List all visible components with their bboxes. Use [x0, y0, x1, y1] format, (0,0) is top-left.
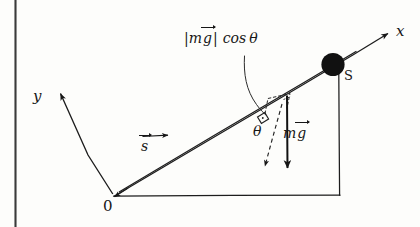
diagram-canvas: x y 0 S θ s mg |mg|cosθ — [0, 0, 420, 227]
displacement-symbol: s — [140, 139, 149, 153]
abs-bar-close: | — [213, 30, 218, 46]
incline-lower-edge — [115, 56, 353, 197]
origin-label: 0 — [103, 199, 113, 214]
point-s-label: S — [344, 69, 353, 82]
incline-origin-arrow — [115, 188, 129, 197]
riser-line — [339, 73, 340, 195]
ground-line — [114, 195, 341, 196]
cosine-function: cos — [223, 30, 246, 46]
gravity-g-symbol: g — [296, 126, 307, 140]
x-axis-arrow — [352, 34, 388, 56]
gravity-vector-label: mg — [283, 126, 307, 140]
normal-theta-symbol: θ — [249, 30, 257, 46]
normal-mass-symbol: m — [189, 30, 202, 46]
normal-g-symbol: g — [202, 31, 213, 45]
x-axis-label: x — [396, 24, 404, 39]
normal-component-label: |mg|cosθ — [184, 31, 258, 45]
right-angle-dot — [262, 117, 264, 119]
displacement-vector-label: s — [140, 139, 149, 153]
gravity-mass-symbol: m — [283, 125, 296, 141]
mass-ball — [321, 53, 344, 76]
y-axis-arrow — [61, 94, 113, 195]
normal-component-dashed-arrow — [265, 104, 282, 166]
incline-upper-edge — [120, 52, 357, 192]
theta-angle-label: θ — [253, 124, 261, 138]
y-axis-label: y — [33, 89, 41, 104]
